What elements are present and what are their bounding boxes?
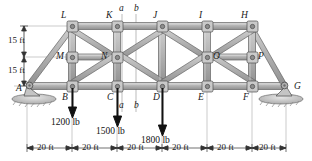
load-label-C: 1500 lb	[96, 127, 125, 137]
joint-label-L: L	[61, 11, 66, 21]
span-label-5: 20 ft	[217, 143, 234, 152]
joint-label-O: O	[213, 52, 220, 62]
joint-label-F: F	[243, 93, 249, 103]
joint-label-G: G	[294, 82, 301, 92]
section-label-b-top: b	[134, 4, 139, 14]
load-label-D: 1800 lb	[141, 136, 170, 146]
joint-label-I: I	[199, 11, 202, 21]
joint-label-D: D	[153, 93, 160, 103]
member-diagonal-D-O	[161, 52, 209, 85]
section-label-a-bottom: a	[119, 101, 124, 111]
span-label-6: 20 ft	[259, 143, 276, 152]
span-label-1: 20 ft	[37, 143, 54, 152]
span-label-4: 20 ft	[172, 143, 189, 152]
joint-label-N: N	[101, 52, 107, 62]
joint-label-P: P	[258, 52, 264, 62]
joint-label-E: E	[198, 93, 204, 103]
span-label-2: 20 ft	[82, 143, 99, 152]
truss-figure: L K J I H a b M N O P A B C D E F G a b …	[0, 0, 312, 161]
joint-label-B: B	[62, 93, 68, 103]
load-label-B: 1200 lb	[51, 118, 80, 128]
joint-label-M: M	[56, 52, 64, 62]
joint-label-H: H	[241, 11, 248, 21]
section-label-a-top: a	[119, 4, 124, 14]
joint-label-J: J	[153, 11, 157, 21]
joint-label-C: C	[107, 93, 113, 103]
height-label-lower: 15 ft	[8, 66, 25, 75]
load-arrow-B	[68, 88, 76, 118]
section-label-b-bottom: b	[134, 101, 139, 111]
joint-label-A: A	[16, 84, 22, 94]
joint-label-K: K	[106, 11, 112, 21]
height-label-upper: 15 ft	[8, 36, 25, 45]
span-label-3: 20 ft	[127, 143, 144, 152]
